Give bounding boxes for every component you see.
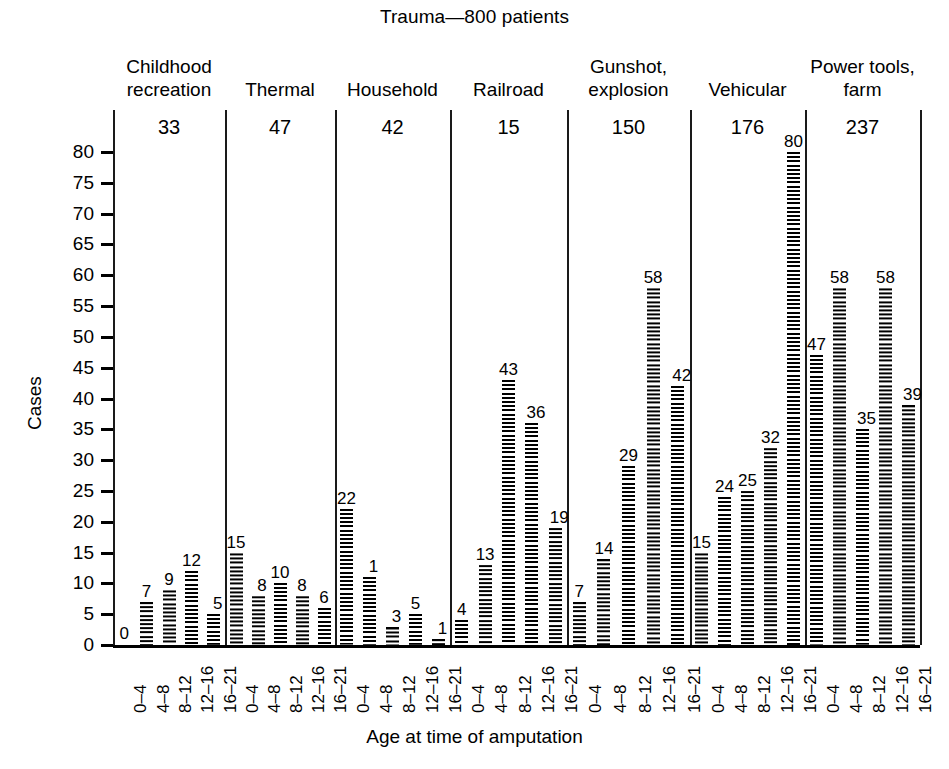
group-name-line1: Childhood <box>79 55 259 78</box>
x-tick-label: 4–8 <box>492 685 512 713</box>
x-tick-label: 4–8 <box>154 685 174 713</box>
group-separator-6 <box>805 110 807 645</box>
bar <box>230 553 243 645</box>
group-total-3: 15 <box>449 116 569 139</box>
bar-value-label: 29 <box>609 447 649 464</box>
bar-value-label: 58 <box>866 269 906 286</box>
x-tick-label: 12–16 <box>660 666 680 713</box>
bar <box>502 380 515 645</box>
y-tick-label: 35 <box>48 419 94 438</box>
bar <box>318 608 331 645</box>
group-header-6: Power tools,farm <box>773 55 949 101</box>
bar-value-label: 36 <box>516 404 556 421</box>
x-tick-label: 4–8 <box>265 685 285 713</box>
bar-value-label: 1 <box>354 558 394 575</box>
bar-value-label: 0 <box>104 625 144 642</box>
bar <box>455 620 468 645</box>
y-tick-label: 75 <box>48 173 94 192</box>
x-tick-label: 16–21 <box>221 666 241 713</box>
bar-value-label: 9 <box>149 571 189 588</box>
bar-value-label: 58 <box>820 269 860 286</box>
bar <box>207 614 220 645</box>
bar <box>787 152 800 645</box>
x-tick-label: 8–12 <box>287 675 307 713</box>
x-axis-title: Age at time of amputation <box>0 726 949 748</box>
bar-value-label: 47 <box>797 336 837 353</box>
x-tick-label: 12–16 <box>309 666 329 713</box>
bar <box>695 553 708 645</box>
bar <box>363 577 376 645</box>
group-total-1: 47 <box>220 116 340 139</box>
x-tick-label: 0–4 <box>131 685 151 713</box>
bar-value-label: 42 <box>662 367 702 384</box>
group-total-4: 150 <box>569 116 689 139</box>
bar-value-label: 15 <box>216 534 256 551</box>
bar <box>525 423 538 645</box>
bar-value-label: 13 <box>465 546 505 563</box>
x-tick-label: 0–4 <box>354 685 374 713</box>
bar <box>879 288 892 645</box>
group-total-0: 33 <box>109 116 229 139</box>
bar-value-label: 6 <box>304 589 344 606</box>
x-tick-label: 16–21 <box>685 666 705 713</box>
x-tick-label: 0–4 <box>469 685 489 713</box>
x-tick-label: 16–21 <box>916 666 936 713</box>
x-tick-label: 12–16 <box>893 666 913 713</box>
y-tick-label: 70 <box>48 204 94 223</box>
group-separator-7 <box>920 110 922 645</box>
group-separator-1 <box>225 110 227 645</box>
y-tick-label: 30 <box>48 450 94 469</box>
bar <box>163 590 176 645</box>
bar-value-label: 39 <box>893 386 933 403</box>
group-separator-4 <box>567 110 569 645</box>
bar <box>386 627 399 645</box>
x-tick-label: 8–12 <box>176 675 196 713</box>
x-tick-label: 8–12 <box>516 675 536 713</box>
group-separator-0 <box>113 110 115 645</box>
bar-value-label: 80 <box>774 133 814 150</box>
bar <box>252 596 265 645</box>
chart-title: Trauma—800 patients <box>0 6 949 28</box>
bar <box>432 639 445 645</box>
bar-value-label: 19 <box>539 509 579 526</box>
group-name-line1: Gunshot, <box>539 55 719 78</box>
y-tick-label: 0 <box>48 635 94 654</box>
bar <box>573 602 586 645</box>
bar <box>140 602 153 645</box>
y-tick-label: 65 <box>48 234 94 253</box>
x-tick-label: 12–16 <box>778 666 798 713</box>
bar <box>764 448 777 645</box>
y-tick-label: 40 <box>48 389 94 408</box>
x-tick-label: 0–4 <box>709 685 729 713</box>
group-separator-2 <box>335 110 337 645</box>
bar <box>647 288 660 645</box>
y-tick-label: 20 <box>48 512 94 531</box>
y-tick-label: 55 <box>48 296 94 315</box>
bar-value-label: 43 <box>489 361 529 378</box>
bar <box>741 491 754 645</box>
bar <box>810 355 823 645</box>
bar <box>856 429 869 645</box>
x-tick-label: 8–12 <box>636 675 656 713</box>
group-name-line2: farm <box>773 78 949 101</box>
x-tick-label: 4–8 <box>611 685 631 713</box>
x-tick-label: 8–12 <box>870 675 890 713</box>
x-tick-label: 8–12 <box>400 675 420 713</box>
y-tick-label: 15 <box>48 543 94 562</box>
bar-value-label: 32 <box>751 429 791 446</box>
bar <box>409 614 422 645</box>
bar <box>479 565 492 645</box>
x-tick-label: 12–16 <box>198 666 218 713</box>
x-tick-label: 0–4 <box>243 685 263 713</box>
y-tick-label: 25 <box>48 481 94 500</box>
bar <box>340 509 353 645</box>
group-separator-3 <box>450 110 452 645</box>
y-tick-label: 60 <box>48 265 94 284</box>
trauma-amputation-bar-chart: Trauma—800 patients ChildhoodrecreationT… <box>0 0 949 769</box>
y-tick-label: 5 <box>48 604 94 623</box>
bar <box>671 386 684 645</box>
bar <box>597 559 610 645</box>
bar-value-label: 14 <box>584 540 624 557</box>
y-tick-label: 10 <box>48 573 94 592</box>
group-total-2: 42 <box>333 116 453 139</box>
